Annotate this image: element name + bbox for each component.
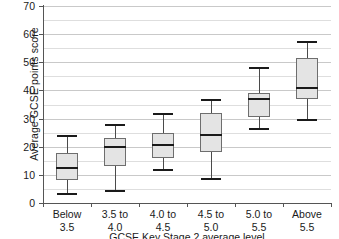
- x-axis-tick: [43, 203, 44, 207]
- median-line: [248, 98, 270, 100]
- whisker-lower: [259, 117, 260, 128]
- y-axis-tick: [39, 90, 43, 91]
- y-axis-tick: [39, 34, 43, 35]
- x-axis-tick: [139, 203, 140, 207]
- box-plot-item[interactable]: [139, 6, 187, 209]
- whisker-cap-lower: [201, 178, 221, 180]
- whisker-lower: [307, 99, 308, 119]
- whisker-lower: [211, 152, 212, 177]
- box-plot-item[interactable]: [91, 6, 139, 209]
- median-line: [296, 87, 318, 89]
- y-axis-tick: [39, 147, 43, 148]
- x-axis-tick: [331, 203, 332, 207]
- box-plot-item[interactable]: [43, 6, 91, 209]
- x-axis-tick: [187, 203, 188, 207]
- median-line: [56, 167, 78, 169]
- whisker-cap-upper: [249, 67, 269, 69]
- whisker-cap-upper: [105, 124, 125, 126]
- whisker-upper: [307, 41, 308, 58]
- x-axis-tick: [235, 203, 236, 207]
- box-plot-item[interactable]: [283, 6, 331, 209]
- box-plot-item[interactable]: [187, 6, 235, 209]
- y-axis-tick-label: 30: [5, 113, 35, 125]
- y-axis-tick-label: 70: [5, 0, 35, 12]
- y-axis-tick: [39, 175, 43, 176]
- whisker-upper: [163, 113, 164, 133]
- box-iqr: [104, 138, 126, 166]
- x-axis-category-label: Above5.5: [275, 208, 339, 233]
- y-axis-tick: [39, 119, 43, 120]
- y-axis-tick-label: 40: [5, 84, 35, 96]
- whisker-lower: [163, 158, 164, 169]
- whisker-upper: [259, 67, 260, 94]
- y-axis-tick-label: 10: [5, 169, 35, 181]
- y-axis-line: [43, 5, 44, 204]
- whisker-lower: [67, 180, 68, 193]
- whisker-upper: [211, 99, 212, 113]
- whisker-cap-upper: [57, 135, 77, 137]
- whisker-cap-upper: [201, 99, 221, 101]
- y-axis-tick-label: 0: [5, 197, 35, 209]
- whisker-cap-lower: [105, 190, 125, 192]
- median-line: [200, 134, 222, 136]
- x-axis-tick: [91, 203, 92, 207]
- y-axis-tick: [39, 62, 43, 63]
- box-iqr: [200, 113, 222, 152]
- box-plot-item[interactable]: [235, 6, 283, 209]
- x-axis-label-line: Above: [275, 208, 339, 221]
- box-iqr: [248, 93, 270, 117]
- whisker-cap-lower: [153, 169, 173, 171]
- y-axis-tick-label: 60: [5, 28, 35, 40]
- x-axis-tick: [283, 203, 284, 207]
- y-axis-tick: [39, 6, 43, 7]
- boxplot-chart: Average GCSE points score 01020304050607…: [0, 0, 339, 239]
- y-axis-tick-label: 50: [5, 56, 35, 68]
- whisker-upper: [115, 124, 116, 138]
- box-iqr: [296, 58, 318, 99]
- y-axis-tick-label: 20: [5, 141, 35, 153]
- plot-area: [43, 6, 331, 203]
- whisker-cap-lower: [249, 128, 269, 130]
- whisker-upper: [67, 135, 68, 152]
- whisker-cap-lower: [297, 119, 317, 121]
- median-line: [104, 146, 126, 148]
- median-line: [152, 144, 174, 146]
- whisker-cap-lower: [57, 193, 77, 195]
- whisker-lower: [115, 166, 116, 190]
- whisker-cap-upper: [153, 113, 173, 115]
- x-axis-title: GCSE Key Stage 2 average level: [43, 231, 331, 239]
- whisker-cap-upper: [297, 41, 317, 43]
